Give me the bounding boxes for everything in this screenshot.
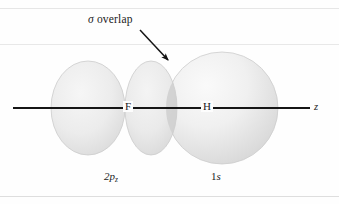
orbital-label-2pz: 2pz (104, 171, 118, 184)
overlap-word: overlap (97, 13, 133, 25)
orbital-artwork (0, 0, 339, 204)
orbital-label-2pz-subscript: z (115, 175, 118, 184)
orbital-label-1s: 1s (211, 171, 221, 182)
overlap-pointer-arrow (140, 30, 168, 60)
atom-label-hydrogen: H (201, 101, 213, 112)
sigma-symbol: σ (88, 13, 97, 25)
atom-label-fluorine: F (123, 101, 133, 112)
sigma-overlap-caption: σoverlap (88, 14, 133, 26)
z-axis-label: z (314, 102, 318, 113)
orbital-label-1s-subscript: s (217, 170, 221, 182)
orbital-overlap-figure: σoverlap F H z 2pz 1s (0, 0, 339, 204)
orbital-label-2pz-base: 2p (104, 170, 115, 182)
